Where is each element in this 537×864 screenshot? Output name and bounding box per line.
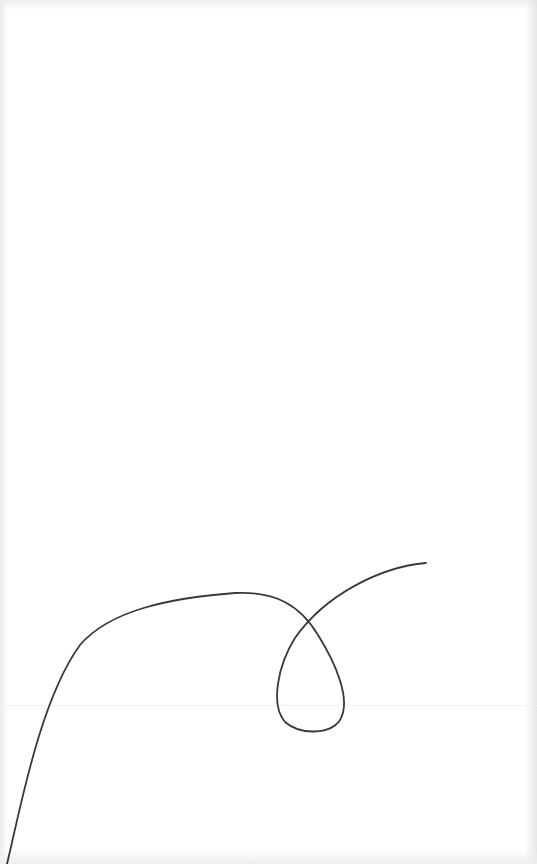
line-drawing xyxy=(0,0,537,864)
blank-page xyxy=(0,0,537,864)
looped-curve xyxy=(7,563,426,864)
